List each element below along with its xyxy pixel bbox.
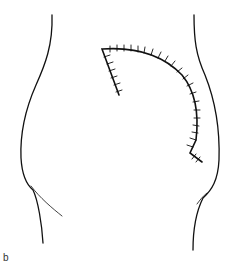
panel-label: b: [3, 252, 9, 263]
right-gluteal-fold: [197, 193, 207, 204]
sutured-incision: [102, 45, 202, 162]
left-body-contour: [21, 15, 52, 243]
left-gluteal-fold: [31, 186, 62, 216]
buttock-outline-diagram: [0, 0, 232, 273]
